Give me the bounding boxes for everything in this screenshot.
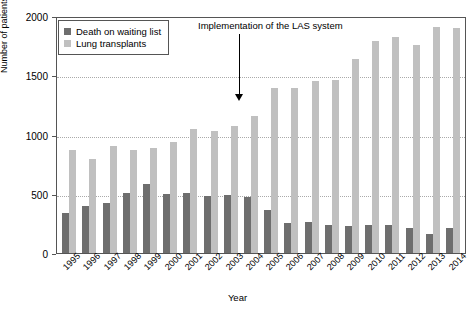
x-axis-tick-container: 1995199619971998199920002001200220032004… <box>56 256 466 296</box>
y-axis-tick-mark <box>52 254 56 255</box>
bar-deaths <box>345 226 352 253</box>
bar-group <box>382 18 402 253</box>
bar-transplants <box>291 88 298 253</box>
bar-group <box>241 18 261 253</box>
x-axis-tick: 2006 <box>281 256 301 296</box>
bar-transplants <box>453 28 460 253</box>
bar-group <box>301 18 321 253</box>
x-axis-tick: 1996 <box>78 256 98 296</box>
legend-item-transplants: Lung transplants <box>64 38 161 49</box>
legend-swatch-deaths-icon <box>64 28 71 35</box>
y-axis-tick-label: 2000 <box>0 12 48 23</box>
bar-transplants <box>392 37 399 253</box>
x-axis-tick: 2001 <box>180 256 200 296</box>
bar-deaths <box>204 196 211 253</box>
bar-deaths <box>365 225 372 253</box>
x-axis-tick: 2004 <box>241 256 261 296</box>
x-axis-tick: 2012 <box>403 256 423 296</box>
annotation-text: Implementation of the LAS system <box>198 20 343 31</box>
x-axis-tick: 2008 <box>322 256 342 296</box>
x-axis-tick: 2007 <box>302 256 322 296</box>
bar-transplants <box>433 27 440 253</box>
annotation-arrow-line-icon <box>239 34 240 96</box>
legend-label-transplants: Lung transplants <box>76 38 146 49</box>
bar-group <box>261 18 281 253</box>
x-axis-title: Year <box>0 292 475 303</box>
bar-transplants <box>312 81 319 253</box>
legend: Death on waiting list Lung transplants <box>58 20 169 55</box>
bar-transplants <box>190 129 197 253</box>
bar-deaths <box>62 213 69 253</box>
bar-transplants <box>170 142 177 253</box>
bar-deaths <box>244 197 251 253</box>
bar-group <box>443 18 463 253</box>
bar-transplants <box>332 80 339 253</box>
y-axis-tick-label: 1000 <box>0 130 48 141</box>
x-axis-tick: 1998 <box>119 256 139 296</box>
bar-transplants <box>69 150 76 253</box>
bar-group <box>200 18 220 253</box>
x-axis-tick: 2003 <box>220 256 240 296</box>
bar-transplants <box>110 146 117 253</box>
bar-deaths <box>163 194 170 253</box>
x-axis-tick: 2000 <box>159 256 179 296</box>
bar-deaths <box>224 195 231 253</box>
bar-deaths <box>103 203 110 253</box>
y-axis-tick-label: 1500 <box>0 71 48 82</box>
legend-label-deaths: Death on waiting list <box>76 26 161 37</box>
bar-deaths <box>305 222 312 253</box>
annotation-arrow-head-icon <box>235 94 243 101</box>
x-axis-tick: 1997 <box>99 256 119 296</box>
x-axis-tick: 1999 <box>139 256 159 296</box>
bar-deaths <box>385 225 392 253</box>
x-axis-tick: 1995 <box>58 256 78 296</box>
x-axis-tick: 2002 <box>200 256 220 296</box>
bar-deaths <box>284 223 291 253</box>
x-axis-tick: 2010 <box>362 256 382 296</box>
x-axis-tick: 2009 <box>342 256 362 296</box>
bar-group <box>362 18 382 253</box>
legend-swatch-transplants-icon <box>64 40 71 47</box>
bar-deaths <box>82 206 89 253</box>
bar-deaths <box>123 193 130 253</box>
bar-transplants <box>211 131 218 253</box>
bar-group <box>180 18 200 253</box>
bar-transplants <box>89 159 96 253</box>
bar-group <box>342 18 362 253</box>
legend-item-deaths: Death on waiting list <box>64 26 161 37</box>
bar-transplants <box>130 150 137 253</box>
bar-transplants <box>150 148 157 253</box>
bar-group <box>322 18 342 253</box>
bar-deaths <box>325 225 332 253</box>
bar-deaths <box>426 234 433 253</box>
bar-deaths <box>183 193 190 253</box>
bar-deaths <box>406 228 413 253</box>
x-axis-tick: 2005 <box>261 256 281 296</box>
bar-transplants <box>413 45 420 253</box>
bar-deaths <box>143 184 150 253</box>
bar-transplants <box>251 116 258 253</box>
chart-figure: Number of patients 0500100015002000 1995… <box>0 0 475 315</box>
bar-deaths <box>446 228 453 253</box>
bar-group <box>221 18 241 253</box>
bar-deaths <box>264 210 271 253</box>
bar-group <box>281 18 301 253</box>
bar-transplants <box>352 59 359 253</box>
x-axis-tick-label: 2014 <box>447 251 468 272</box>
x-axis-tick: 2014 <box>444 256 464 296</box>
bar-transplants <box>372 41 379 253</box>
x-axis-tick: 2013 <box>423 256 443 296</box>
x-axis-tick: 2011 <box>383 256 403 296</box>
y-axis-tick-label: 0 <box>0 249 48 260</box>
y-axis-tick-label: 500 <box>0 189 48 200</box>
bar-transplants <box>231 126 238 253</box>
bar-group <box>423 18 443 253</box>
bar-group <box>402 18 422 253</box>
bar-transplants <box>271 88 278 253</box>
